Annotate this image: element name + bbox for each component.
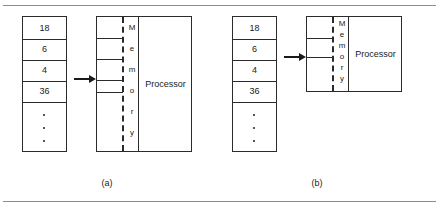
memory-b-letter: r	[336, 64, 348, 72]
stack-b-cell-3: 36	[233, 87, 276, 96]
memory-b-divider-1	[307, 38, 333, 39]
stack-b-divider-4	[233, 102, 276, 103]
memory-b-dashed-boundary	[332, 17, 334, 91]
stack-a-ellipsis-dot	[43, 114, 45, 116]
stack-b-ellipsis-dot	[253, 140, 255, 142]
processor-a-label: Processor	[140, 80, 191, 89]
memory-a-letter: e	[126, 45, 138, 53]
stack-b-cell-1: 6	[233, 45, 276, 54]
top-divider-rule	[3, 5, 436, 6]
memory-b-letter: m	[336, 42, 348, 50]
stack-a-divider-4	[23, 102, 66, 103]
caption-b: (b)	[297, 179, 337, 188]
memory-a-dashed-boundary	[122, 17, 124, 151]
stack-a-cell-3: 36	[23, 87, 66, 96]
stack-b-divider-3	[233, 81, 276, 82]
memory-b-letter: e	[336, 31, 348, 39]
stack-b: 18 6 4 36	[232, 16, 277, 152]
stack-a-cell-0: 18	[23, 24, 66, 33]
stack-a-divider-2	[23, 60, 66, 61]
processor-b-label: Processor	[350, 50, 401, 59]
stack-a-cell-1: 6	[23, 45, 66, 54]
memory-a-letter: o	[126, 87, 138, 95]
memory-b-letter: M	[336, 20, 348, 28]
memory-a-letter: m	[126, 66, 138, 74]
processor-a-left-edge	[138, 17, 139, 151]
stack-a-divider-1	[23, 39, 66, 40]
stack-a: 18 6 4 36	[22, 16, 67, 152]
stack-a-divider-3	[23, 81, 66, 82]
stack-b-divider-2	[233, 60, 276, 61]
stack-b-cell-0: 18	[233, 24, 276, 33]
bottom-divider-rule	[3, 201, 436, 202]
stack-a-cell-2: 4	[23, 66, 66, 75]
stack-b-ellipsis-dot	[253, 127, 255, 129]
caption-a: (a)	[87, 179, 127, 188]
stack-b-cell-2: 4	[233, 66, 276, 75]
memory-a-divider-3	[97, 80, 123, 81]
memory-b-letter: o	[336, 53, 348, 61]
memory-a-divider-1	[97, 38, 123, 39]
stack-b-divider-1	[233, 39, 276, 40]
stack-a-ellipsis-dot	[43, 140, 45, 142]
stack-a-ellipsis-dot	[43, 127, 45, 129]
arrow-a-shaft	[74, 78, 90, 80]
arrow-a-head	[89, 75, 96, 83]
arrow-b-head	[299, 53, 306, 61]
figure-canvas: 18 6 4 36 M e m o r y	[0, 0, 439, 213]
memory-a-divider-4	[97, 92, 123, 93]
stack-b-ellipsis-dot	[253, 114, 255, 116]
memory-a-divider-2	[97, 59, 123, 60]
memory-a-letter: y	[126, 129, 138, 137]
memory-a-letter: M	[126, 24, 138, 32]
memory-b-letter: y	[336, 75, 348, 83]
processor-b-left-edge	[348, 17, 349, 91]
memory-b-divider-2	[307, 57, 333, 58]
memory-a-letter: r	[126, 108, 138, 116]
arrow-b-shaft	[284, 56, 300, 58]
